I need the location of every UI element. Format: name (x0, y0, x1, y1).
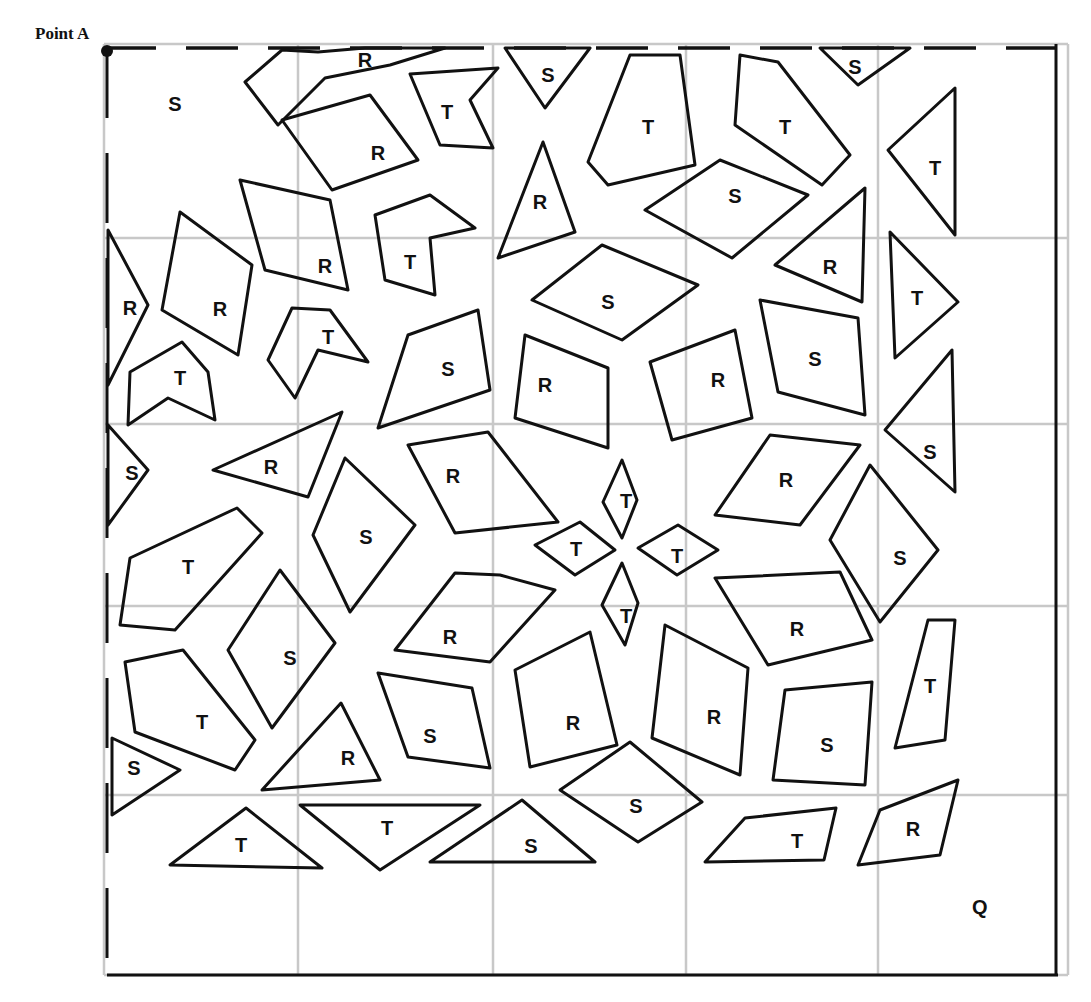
shape-label: T (441, 101, 453, 123)
shape-s: S (885, 350, 955, 492)
shape-r: R (652, 625, 748, 775)
shape-label: S (441, 358, 454, 380)
shape-s: S (228, 570, 335, 728)
shape-label: T (196, 711, 208, 733)
shape-label: T (404, 251, 416, 273)
shape-t: T (588, 55, 695, 185)
shape-s: S (532, 245, 698, 340)
shape-label: R (566, 712, 581, 734)
shape-t: T (375, 195, 475, 295)
shape-label: T (620, 605, 632, 627)
shape-outline (282, 95, 418, 190)
shape-s: S (378, 310, 490, 428)
shape-r: R (395, 573, 555, 662)
shape-label: R (779, 469, 794, 491)
shape-t: T (268, 308, 368, 398)
shape-r: R (162, 212, 252, 355)
shape-label: S (893, 547, 906, 569)
shape-label: T (642, 116, 654, 138)
shape-outline (652, 625, 748, 775)
shape-label: T (671, 545, 683, 567)
shape-label: S (820, 734, 833, 756)
shape-label: R (906, 818, 921, 840)
shape-t: T (638, 525, 718, 575)
shape-label: R (123, 297, 138, 319)
shape-t: T (890, 232, 958, 358)
shape-outline (705, 808, 836, 862)
shape-label: R (443, 626, 458, 648)
shape-t: T (120, 508, 262, 630)
shape-label: T (182, 556, 194, 578)
shape-s: S (168, 93, 181, 115)
shape-label: T (779, 116, 791, 138)
shape-s: S (830, 465, 938, 622)
shape-label: S (359, 526, 372, 548)
shape-label: R (371, 142, 386, 164)
shape-label: T (929, 157, 941, 179)
shape-outline (268, 308, 368, 398)
shape-label: S (728, 185, 741, 207)
shape-label: T (911, 287, 923, 309)
shape-t: T (602, 563, 638, 645)
shape-label: T (620, 490, 632, 512)
shape-s: S (313, 458, 415, 612)
shape-label: R (264, 456, 279, 478)
shape-outline (532, 245, 698, 340)
shape-label: T (570, 538, 582, 560)
shape-r: R (498, 142, 575, 258)
shape-outline (128, 342, 215, 425)
shape-label: R (358, 49, 373, 71)
shape-t: T (895, 620, 955, 748)
shape-t: T (300, 805, 480, 870)
shape-t: T (410, 68, 498, 148)
shape-outline (820, 48, 910, 85)
shapes-layer: SRTSTTSRTRSRTRRRTSTSRRSTSSRRSRTTTTSTRRST… (108, 48, 958, 870)
shape-outline (430, 800, 595, 862)
shape-outline (162, 212, 252, 355)
shape-label: R (790, 618, 805, 640)
shape-r: R (715, 572, 872, 665)
shape-r: R (858, 780, 958, 865)
shape-outline (890, 232, 958, 358)
shape-label: R (711, 369, 726, 391)
shape-label: R (533, 191, 548, 213)
shape-label: T (322, 326, 334, 348)
shape-label: S (808, 348, 821, 370)
shape-r: R (408, 432, 558, 533)
shape-label: R (446, 465, 461, 487)
shape-label: S (283, 647, 296, 669)
shape-label: S (127, 757, 140, 779)
shape-label: S (524, 835, 537, 857)
shape-outline (515, 335, 608, 448)
shape-outline (560, 742, 702, 842)
shape-label: S (601, 291, 614, 313)
point-a-label: Point A (35, 24, 89, 44)
shape-outline (775, 188, 865, 302)
shape-t: T (888, 88, 955, 235)
shape-label: T (174, 367, 186, 389)
shape-label: S (423, 725, 436, 747)
shape-outline (830, 465, 938, 622)
shape-r: R (108, 230, 148, 385)
shape-label: S (629, 795, 642, 817)
shape-label: T (791, 830, 803, 852)
shape-s: S (560, 742, 702, 842)
shape-r: R (282, 95, 418, 190)
shape-outline (375, 195, 475, 295)
shape-label: S (848, 56, 861, 78)
shape-s: S (773, 682, 872, 785)
shape-s: S (112, 738, 180, 815)
shape-label: T (381, 817, 393, 839)
shape-r: R (715, 435, 860, 525)
shape-label: R (341, 747, 356, 769)
shape-label: R (213, 298, 228, 320)
shape-r: R (240, 180, 348, 290)
shape-s: S (378, 673, 490, 768)
shape-label: T (235, 834, 247, 856)
puzzle-diagram: SRTSTTSRTRSRTRRRTSTSRRSTSSRRSRTTTTSTRRST… (0, 0, 1091, 1002)
grid-lines (104, 44, 1068, 975)
shape-outline (112, 738, 180, 815)
shape-t: T (128, 342, 215, 425)
shape-outline (410, 68, 498, 148)
shape-label: R (538, 374, 553, 396)
